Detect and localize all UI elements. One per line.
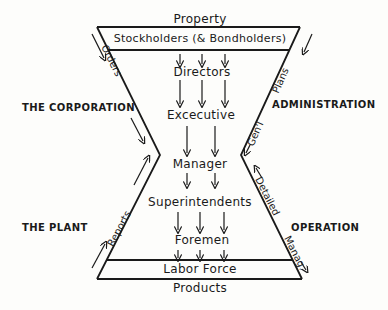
level-directors: Directors	[173, 65, 230, 79]
administration-label: ADMINISTRATION	[272, 99, 376, 110]
operation-label: OPERATION	[291, 222, 359, 233]
the-corporation-label: THE CORPORATION	[22, 102, 135, 113]
the-plant-label: THE PLANT	[22, 222, 88, 233]
labor-force-band: Labor Force	[163, 262, 237, 276]
level-manager: Manager	[173, 157, 228, 171]
property-label: Property	[173, 12, 226, 26]
level-superintendents: Superintendents	[148, 195, 252, 209]
stockholders-band: Stockholders (& Bondholders)	[114, 32, 287, 45]
level-executive: Excecutive	[167, 108, 235, 122]
level-foremen: Foremen	[175, 233, 230, 247]
products-label: Products	[173, 281, 227, 295]
